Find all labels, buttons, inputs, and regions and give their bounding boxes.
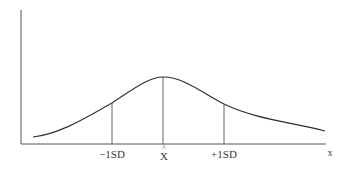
minus-1sd-label: −1SD xyxy=(99,149,125,160)
mean-symbol: X xyxy=(160,150,168,162)
mean-label: ^ X xyxy=(160,146,168,162)
x-axis-label: x xyxy=(328,148,333,158)
distribution-curve xyxy=(33,77,325,137)
plus-1sd-label: +1SD xyxy=(211,149,237,160)
distribution-diagram xyxy=(0,0,349,171)
